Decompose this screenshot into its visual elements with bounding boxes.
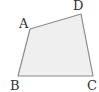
quadrilateral-abcd — [18, 14, 93, 76]
vertex-label-c: C — [87, 78, 97, 92]
vertex-label-d: D — [73, 0, 83, 13]
quadrilateral-diagram: A D B C — [0, 0, 99, 92]
vertex-label-b: B — [10, 78, 20, 92]
vertex-label-a: A — [18, 16, 29, 31]
